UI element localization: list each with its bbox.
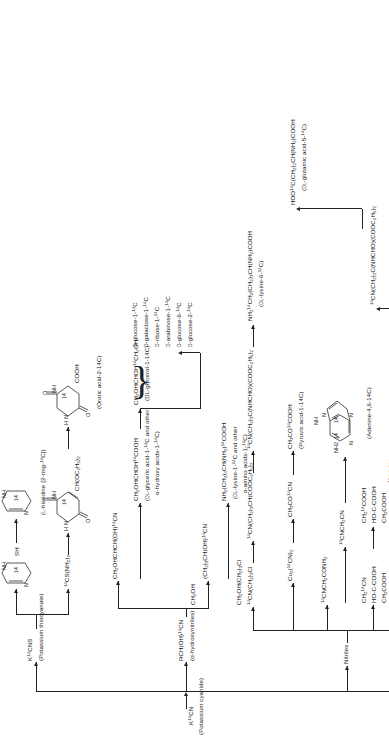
- orotic-h-left: H: [64, 421, 70, 425]
- sugar-elbow-arrowhead: [178, 351, 182, 355]
- node-potassium-cyanide-name: (Potassium cyanide): [198, 678, 204, 735]
- node-citric-l3: CH2COOH: [381, 493, 389, 523]
- sugar-item-2: D-ribose-1-14C: [154, 307, 160, 347]
- node-nitriles-label: Nitriles: [343, 645, 349, 664]
- nitriles-split-vertical: [253, 630, 373, 631]
- arrow-cuprous-to-acetylcyanide-head: [291, 519, 295, 523]
- arrow-to-chloronitrile-head: [251, 607, 255, 611]
- thiouracil-n-left: N: [64, 521, 70, 525]
- node-lysine-acid-name-1: (DL-lysine-1-14C and other: [232, 426, 238, 499]
- node-hydroxyvaleronitrile: (CH2)3CH(OH)14CN: [202, 524, 210, 579]
- node-glutamate-ester: 14CN(CH2)2C(NHCHO)(COOC2H5)2: [370, 206, 378, 305]
- thiouracil-nh-left: H: [64, 527, 70, 531]
- adenine-purine-structure: [322, 389, 362, 445]
- node-adenine-name: (Adenine-4,6-14C): [366, 387, 372, 439]
- orotic-cooh: COOH: [74, 364, 80, 383]
- node-hydroxyvaleronitrile-prefix: CH2OH: [190, 584, 198, 605]
- arrow-to-histidine-thiol-head: [14, 589, 18, 593]
- imidazole-nh-label: NH: [2, 562, 8, 570]
- sugar-item-3: D-arabinose-1-14C: [165, 296, 171, 347]
- node-pyruvic-name: (Pyruvic acid-1-14C): [298, 391, 304, 449]
- node-citric-precursor-l3: CH2COOH: [381, 573, 389, 603]
- imidazole2-nh-label: NH: [2, 490, 8, 498]
- arrow-thiol-to-histidine-head: [14, 519, 18, 523]
- node-cyanoacetamide: 14CNCH2CONH2: [321, 556, 329, 603]
- bottom-spine-vertical: [347, 691, 389, 692]
- orotic-name: (Orotic acid-2-14C): [96, 355, 102, 409]
- arrow-to-cuprous-cyanide: [293, 583, 294, 631]
- node-citric-l1: CH214COOH: [361, 488, 369, 523]
- sugar-elbow-riser: [182, 352, 200, 353]
- arrow-to-glyceronitrile: [118, 581, 119, 609]
- adenine-c14-b: 14: [334, 417, 340, 423]
- scheme-canvas: K14CN (Potassium cyanide) K14CNS (Potass…: [0, 0, 389, 739]
- node-citric-l2: HO-C-COOH: [371, 486, 377, 523]
- adenine-nh9: NH: [314, 417, 320, 425]
- branch-thiocyanate-arrowhead: [34, 662, 38, 666]
- arrow-glyceronitrile-to-glyceric-head: [138, 503, 142, 507]
- sugar-elbow-horizontal: [200, 353, 201, 409]
- arrow-malononitrile-to-adenine: [345, 457, 346, 503]
- link-ester-to-glutamic: [362, 209, 363, 229]
- node-chlorobutanol: CH2OH(CH2)3Cl: [236, 560, 244, 605]
- imidazole-n-label: N: [24, 583, 30, 587]
- node-citric-precursor-l2: HO-C-COOH: [371, 566, 377, 603]
- node-acetyl-cyanide: CH3CO14CN: [287, 482, 295, 517]
- thiouracil-c14: 14: [62, 499, 68, 505]
- arrow-malonate-to-formamido-head: [251, 451, 255, 455]
- adenine-n7: N: [322, 413, 328, 417]
- steroid-branch-vertical: [373, 630, 389, 631]
- histidine-name: (L-histidine [2-ring-14C]): [40, 449, 46, 515]
- orotic-ring-structure: [52, 378, 88, 418]
- arrow-to-hydroxyvaleronitrile: [208, 581, 209, 609]
- arrow-to-hydroxyvaleronitrile-head: [206, 581, 210, 585]
- arrow-glyceronitrile-to-glyceric: [140, 503, 141, 579]
- imidazole2-n-label: N: [24, 511, 30, 515]
- adenine-n1: N: [349, 441, 355, 445]
- node-citric-precursor-l1: CH214CN: [361, 577, 369, 603]
- arrow-to-citric-precursor-head: [371, 605, 375, 609]
- arrow-valeronitrile-to-lysine-acid: [228, 503, 229, 579]
- sugar-item-4: D-glucose-6-14C: [176, 302, 182, 347]
- sugar-item-5: D-glucose-2-14C: [187, 302, 193, 347]
- thiouracil-acetal: CH(OC2H5)2: [74, 456, 82, 491]
- node-lysine-6-name: (DL-lysine-6-14C): [258, 261, 264, 307]
- node-lysine-acid: NH2(CH2)4CH(NH2)14COOH: [221, 422, 229, 501]
- arrow-to-cyanoacetamide-head: [325, 605, 329, 609]
- orotic-nh: NH: [52, 385, 58, 393]
- orotic-o-top: O: [43, 391, 49, 395]
- arrow-citric-precursor-to-citric-head: [371, 527, 375, 531]
- arrow-formamido-to-lysine6-head: [251, 325, 255, 329]
- thiouracil-ring-structure: [52, 484, 88, 524]
- branch-cyanohydrin-arrowhead: [184, 662, 188, 666]
- branch-nitriles-arrowhead: [345, 666, 349, 670]
- riser-glutamic-arrowhead: [296, 207, 300, 211]
- glycerol-down-vertical: [140, 408, 200, 409]
- riser-ester-arrowhead: [376, 307, 380, 311]
- thiouracil-nh: NH: [52, 491, 58, 499]
- node-potassium-thiocyanate-formula: K14CNS: [27, 639, 33, 661]
- arrow-to-glyceronitrile-head: [116, 581, 120, 585]
- node-cyanohydrin-formula: RCH(OH)14CN: [178, 620, 184, 661]
- node-glyceraldehyde-nitrile: CH2OHCHCH(OH)14CN: [112, 512, 120, 579]
- sugar-item-1: D-galactose-1-14C: [143, 297, 149, 347]
- arrow-cyanoacetamide-to-malononitrile: [345, 547, 346, 603]
- node-formamido-ester: 14CN(CH2)3C(NHCHO)(COOC2H5)2: [247, 350, 255, 449]
- riser-to-glutamic: [300, 208, 362, 209]
- node-glyceric-acid: CH2OHCHOH14COOH: [133, 438, 141, 501]
- orotic-c14: 14: [62, 393, 68, 399]
- node-lysine-6: NH214CH2(CH2)3CH(NH2)COOH: [247, 231, 255, 321]
- cyanohydrin-to-split: [186, 609, 187, 617]
- feed-cyanide-arrowhead: [184, 692, 188, 696]
- imidazole2-c14-label: 14: [14, 495, 20, 501]
- sugar-brace: }: [132, 361, 151, 401]
- thiouracil-s: S: [43, 497, 49, 501]
- riser-to-glutamate-ester: [380, 308, 389, 309]
- arrow-chloronitrile-to-malonate-head: [251, 541, 255, 545]
- node-glutamic-name: (DL-glutamic acid-5-14C): [301, 124, 307, 191]
- nitriles-to-split: [347, 631, 348, 643]
- branch-cyanohydrin-line: [186, 662, 187, 692]
- spine-main: [36, 691, 347, 692]
- arrow-cyanoacetamide-to-malononitrile-head: [343, 547, 347, 551]
- orotic-n-left: N: [64, 415, 70, 419]
